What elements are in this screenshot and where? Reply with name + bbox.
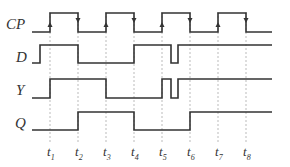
waveform-canvas	[0, 0, 290, 167]
time-label-t2: t2	[75, 145, 83, 162]
falling-edge-arrow-icon	[244, 18, 249, 23]
waveform-q	[32, 112, 272, 130]
waveform-d	[32, 45, 272, 63]
time-label-t1: t1	[47, 145, 55, 162]
time-label-t6: t6	[187, 145, 195, 162]
signal-label-cp: CP	[6, 17, 25, 32]
falling-edge-arrow-icon	[188, 18, 193, 23]
time-label-t7: t7	[215, 145, 223, 162]
waveform-y	[32, 79, 272, 98]
rising-edge-arrow-icon	[48, 22, 53, 27]
time-label-t4: t4	[131, 145, 139, 162]
signal-label-y: Y	[16, 83, 24, 98]
waveform-cp	[32, 13, 272, 32]
timing-diagram: CP D Y Q t1t2t3t4t5t6t7t8	[0, 0, 290, 167]
falling-edge-arrow-icon	[132, 18, 137, 23]
rising-edge-arrow-icon	[104, 22, 109, 27]
time-label-t3: t3	[103, 145, 111, 162]
rising-edge-arrow-icon	[216, 22, 221, 27]
time-label-t5: t5	[159, 145, 167, 162]
time-label-t8: t8	[243, 145, 251, 162]
signal-label-q: Q	[15, 116, 26, 131]
rising-edge-arrow-icon	[160, 22, 165, 27]
falling-edge-arrow-icon	[76, 18, 81, 23]
signal-label-d: D	[16, 50, 27, 65]
